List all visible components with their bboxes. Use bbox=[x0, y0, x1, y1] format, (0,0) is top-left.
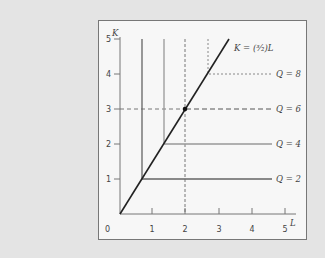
x-tick-label-5: 5 bbox=[283, 225, 288, 234]
x-tick-label-2: 2 bbox=[183, 225, 188, 234]
isoquant-chart: 1 2 3 4 5 1 2 3 4 5 0 K L bbox=[0, 0, 325, 258]
y-ticks bbox=[114, 39, 120, 179]
x-tick-label-3: 3 bbox=[217, 225, 222, 234]
y-axis-label: K bbox=[111, 28, 119, 38]
x-tick-label-4: 4 bbox=[250, 225, 255, 234]
expansion-path-label: K = (³⁄₂)L bbox=[233, 43, 274, 53]
x-ticks bbox=[152, 208, 285, 214]
x-axis-label: L bbox=[289, 218, 296, 228]
isoquant-label-q4: Q = 4 bbox=[276, 139, 301, 149]
y-tick-label-3: 3 bbox=[106, 105, 111, 114]
figure-panel: 1 2 3 4 5 1 2 3 4 5 0 K L bbox=[0, 0, 325, 258]
y-tick-label-5: 5 bbox=[106, 35, 111, 44]
origin-label: 0 bbox=[105, 225, 110, 234]
isoquant-q4 bbox=[164, 39, 272, 144]
y-tick-label-2: 2 bbox=[106, 140, 111, 149]
x-tick-label-1: 1 bbox=[150, 225, 155, 234]
isoquant-label-q2: Q = 2 bbox=[276, 174, 301, 184]
isoquant-label-q8: Q = 8 bbox=[276, 69, 301, 79]
expansion-path-line bbox=[120, 39, 229, 214]
y-tick-label-1: 1 bbox=[106, 175, 111, 184]
isoquant-label-q6: Q = 6 bbox=[276, 104, 301, 114]
y-tick-label-4: 4 bbox=[106, 70, 111, 79]
optimal-point-marker bbox=[183, 107, 188, 112]
